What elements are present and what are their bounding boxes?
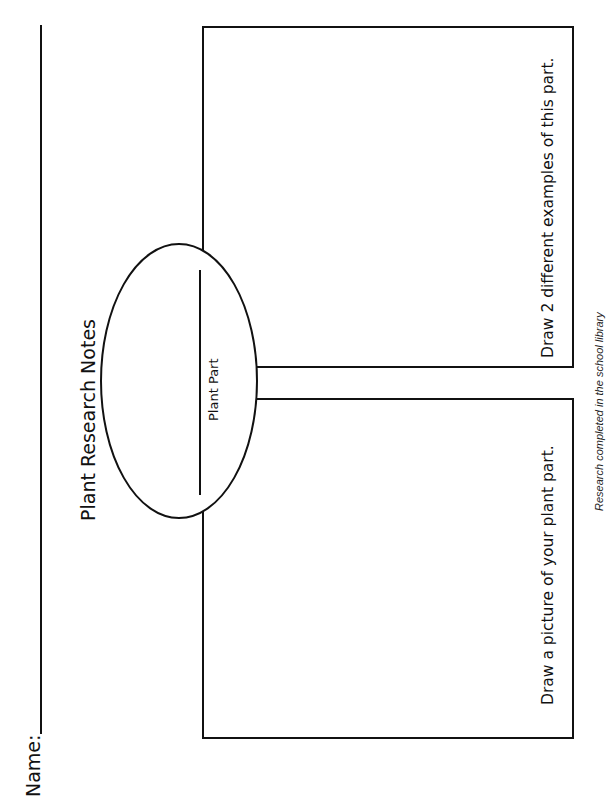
picture-drawing-box[interactable] — [203, 399, 573, 738]
name-label: Name: — [24, 735, 43, 797]
plant-part-label: Plant Part — [207, 358, 220, 421]
worksheet-page: Name: Plant Research Notes Plant Part Dr… — [0, 0, 607, 812]
worksheet-title: Plant Research Notes — [79, 319, 98, 521]
picture-box-instruction: Draw a picture of your plant part. — [541, 445, 557, 705]
footer-note: Research completed in the school library — [594, 312, 605, 511]
examples-drawing-box[interactable] — [203, 27, 573, 367]
examples-box-instruction: Draw 2 different examples of this part. — [541, 58, 557, 358]
